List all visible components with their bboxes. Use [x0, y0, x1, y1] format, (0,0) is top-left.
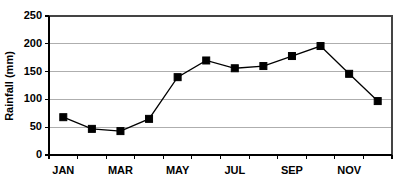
data-point-dec	[374, 98, 381, 105]
data-point-jul	[231, 65, 238, 72]
data-point-mar	[117, 128, 124, 135]
x-tick-label-nov: NOV	[337, 164, 362, 176]
x-tick-label-may: MAY	[166, 164, 190, 176]
data-point-may	[174, 74, 181, 81]
data-point-oct	[317, 43, 324, 50]
chart-canvas: 250200150100500 JANMARMAYJULSEPNOV Rainf…	[0, 0, 405, 190]
x-tick-label-jul: JUL	[224, 164, 245, 176]
y-axis-title: Rainfall (mm)	[3, 51, 15, 121]
data-point-jan	[60, 114, 67, 121]
x-tick-label-jan: JAN	[52, 164, 74, 176]
x-tick-label-sep: SEP	[281, 164, 303, 176]
y-tick-label-200: 200	[24, 37, 42, 49]
y-tick-label-250: 250	[24, 9, 42, 21]
data-point-sep	[288, 53, 295, 60]
y-tick-label-50: 50	[30, 120, 42, 132]
data-point-nov	[346, 70, 353, 77]
rainfall-line-chart: 250200150100500 JANMARMAYJULSEPNOV Rainf…	[0, 0, 405, 190]
data-point-jun	[203, 57, 210, 64]
x-tick-label-mar: MAR	[108, 164, 133, 176]
y-axis-title-group: Rainfall (mm)	[3, 51, 15, 121]
data-point-apr	[146, 115, 153, 122]
y-tick-label-0: 0	[36, 148, 42, 160]
chart-background	[0, 0, 405, 190]
data-point-feb	[88, 125, 95, 132]
y-tick-label-150: 150	[24, 65, 42, 77]
data-point-aug	[260, 63, 267, 70]
y-tick-label-100: 100	[24, 92, 42, 104]
